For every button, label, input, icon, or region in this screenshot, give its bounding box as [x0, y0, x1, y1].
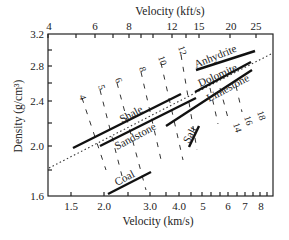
shale-label: Shale [117, 103, 144, 125]
y-tick-2.0: 2.0 [30, 140, 44, 152]
y-axis-title: Density (g/cm³) [12, 79, 25, 152]
iso-label-10: 10 [156, 55, 169, 67]
y-tick-2.8: 2.8 [30, 60, 44, 72]
bottom-axis-ticks [71, 192, 267, 196]
top-tick-8: 8 [126, 20, 132, 32]
top-tick-12: 12 [167, 20, 178, 32]
y-tick-2.4: 2.4 [30, 95, 44, 107]
iso-label-6: 6 [113, 77, 124, 85]
x-tick-2.0: 2.0 [97, 200, 111, 212]
top-tick-6: 6 [92, 20, 98, 32]
x-tick-7: 7 [242, 200, 248, 212]
x-tick-8: 8 [258, 200, 264, 212]
top-tick-20: 20 [226, 20, 238, 32]
x-axis-title: Velocity (km/s) [122, 215, 193, 228]
density-velocity-chart: Velocity (kft/s) 4 6 8 12 15 20 25 3.2 2… [0, 0, 289, 240]
x-tick-6: 6 [225, 200, 231, 212]
y-tick-3.2: 3.2 [30, 28, 44, 40]
x-tick-5: 5 [200, 200, 206, 212]
iso-label-18: 18 [255, 110, 268, 122]
top-axis-title: Velocity (kft/s) [135, 5, 204, 18]
y-tick-1.6: 1.6 [30, 190, 44, 202]
top-tick-15: 15 [194, 20, 206, 32]
x-tick-1.5: 1.5 [64, 200, 78, 212]
iso-label-5: 5 [96, 84, 107, 92]
gardner-dotted-line [49, 53, 273, 168]
iso-label-14: 14 [231, 122, 244, 134]
iso-label-16: 16 [242, 115, 255, 127]
top-tick-25: 25 [251, 20, 263, 32]
top-tick-4: 4 [46, 20, 52, 32]
iso-label-12: 12 [176, 45, 189, 57]
iso-label-8: 8 [137, 66, 148, 74]
x-tick-4.0: 4.0 [172, 200, 186, 212]
x-tick-3.0: 3.0 [143, 200, 157, 212]
